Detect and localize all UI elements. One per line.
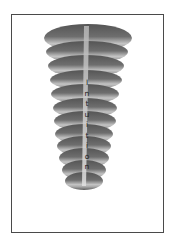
intuition-label: I n t u i t i o n — [82, 78, 92, 173]
